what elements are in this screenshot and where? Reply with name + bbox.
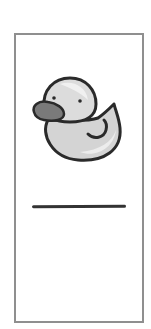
rubber-duck-icon (30, 72, 128, 164)
divider-line (32, 205, 126, 209)
